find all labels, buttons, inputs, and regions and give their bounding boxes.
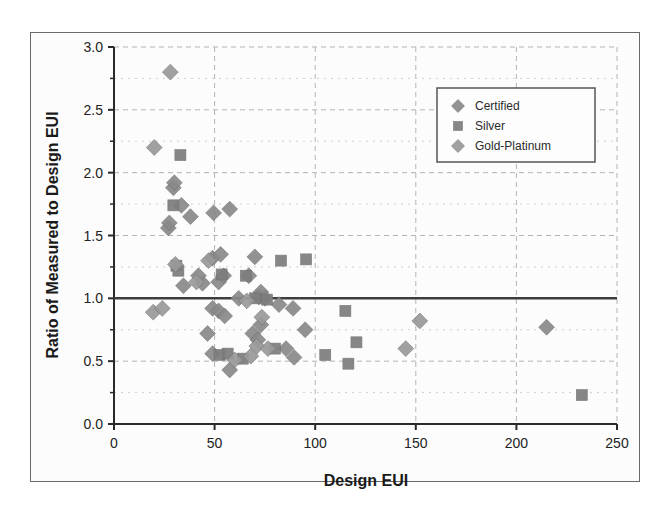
data-point-certified [297, 322, 313, 338]
data-point-certified [206, 205, 222, 221]
legend-label-certified: Certified [475, 99, 520, 113]
x-tick-label: 200 [505, 435, 529, 451]
data-point-silver [168, 200, 179, 211]
legend-label-silver: Silver [475, 119, 505, 133]
legend-label-gold-platinum: Gold-Platinum [475, 139, 551, 153]
figure-container: 0501001502002500.00.51.01.52.02.53.0 Des… [0, 0, 666, 510]
y-tick-label: 3.0 [84, 39, 104, 55]
data-point-silver [351, 337, 362, 348]
legend: CertifiedSilverGold-Platinum [437, 88, 595, 162]
y-tick-label: 1.0 [84, 290, 104, 306]
data-point-certified [247, 249, 263, 265]
y-tick-label: 0.5 [84, 353, 104, 369]
y-tick-label: 1.5 [84, 228, 104, 244]
y-tick-label: 0.0 [84, 416, 104, 432]
data-point-silver [240, 270, 251, 281]
y-tick-label: 2.5 [84, 102, 104, 118]
x-tick-label: 100 [304, 435, 328, 451]
data-point-gold-platinum [398, 341, 414, 357]
data-point-gold-platinum [146, 140, 162, 156]
legend-marker-silver [454, 122, 463, 131]
data-point-silver [261, 294, 272, 305]
data-point-silver [275, 255, 286, 266]
x-tick-label: 250 [605, 435, 629, 451]
data-point-silver [576, 390, 587, 401]
data-point-silver [320, 349, 331, 360]
y-tick-label: 2.0 [84, 165, 104, 181]
scatter-chart: 0501001502002500.00.51.01.52.02.53.0 Des… [0, 0, 666, 510]
data-point-silver [340, 305, 351, 316]
x-tick-label: 150 [404, 435, 428, 451]
x-axis-title: Design EUI [324, 472, 408, 489]
data-point-certified [175, 278, 191, 294]
data-point-gold-platinum [412, 313, 428, 329]
data-point-silver [175, 150, 186, 161]
data-point-gold-platinum [162, 64, 178, 80]
data-point-certified [183, 209, 199, 225]
data-point-certified [285, 300, 301, 316]
data-point-certified [222, 201, 238, 217]
data-point-silver [216, 269, 227, 280]
data-point-silver [301, 254, 312, 265]
data-point-certified [539, 319, 555, 335]
x-tick-label: 50 [207, 435, 223, 451]
x-tick-label: 0 [110, 435, 118, 451]
data-point-certified [200, 326, 216, 342]
y-axis-title: Ratio of Measured to Design EUI [44, 111, 61, 358]
data-point-silver [343, 358, 354, 369]
